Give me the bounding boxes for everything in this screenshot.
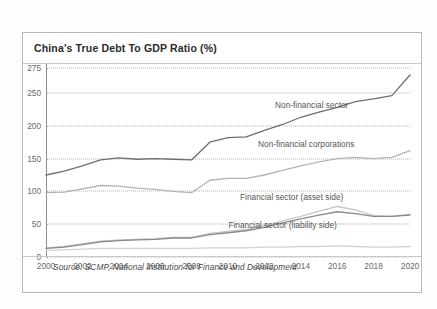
- page-root: China's True Debt To GDP Ratio (%) 05010…: [0, 0, 437, 309]
- source-note: Source: SCMP, National Institution for F…: [53, 262, 297, 272]
- page-title: China's True Debt To GDP Ratio (%): [34, 42, 217, 54]
- y-axis-tick-label: 150: [27, 154, 41, 164]
- series-label: Non-financial corporations: [258, 139, 354, 149]
- series-line: [46, 246, 410, 251]
- series-label: Financial sector (asset side): [240, 192, 343, 202]
- x-axis-tick-label: 2020: [401, 261, 419, 271]
- y-axis-tick-label: 200: [27, 121, 41, 131]
- y-axis-tick-label: 250: [27, 88, 41, 98]
- chart-card: China's True Debt To GDP Ratio (%) 05010…: [22, 32, 422, 293]
- series-line: [46, 151, 410, 193]
- series-line: [46, 75, 410, 175]
- plot-area: 050100150200250275 200020022004200620082…: [46, 65, 410, 257]
- x-axis-tick-label: 2016: [328, 261, 346, 271]
- series-line: [46, 212, 410, 249]
- y-axis-tick-label: 50: [32, 219, 41, 229]
- y-axis-tick-label: 100: [27, 186, 41, 196]
- series-label: Non-financial sector: [275, 100, 348, 110]
- y-axis-tick-label: 275: [27, 63, 41, 73]
- title-divider: [23, 63, 421, 64]
- x-axis-tick-label: 2018: [364, 261, 382, 271]
- source-divider: [23, 256, 421, 257]
- series-label: Financial sector (liability side): [228, 220, 336, 230]
